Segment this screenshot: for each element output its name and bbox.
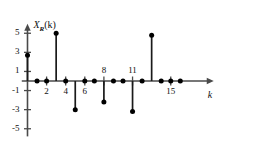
stem-marker-k6	[82, 79, 87, 84]
stem-marker-k7	[92, 79, 97, 84]
stem-marker-k0	[25, 53, 30, 58]
x-axis-arrowhead	[207, 78, 214, 84]
stem-marker-k16	[178, 79, 183, 84]
y-axis-title: XR(k)	[34, 20, 56, 33]
y-tick-label-3: 3	[0, 47, 20, 56]
stem-marker-k9	[111, 79, 116, 84]
y-tick-label-minus-1: -1	[0, 86, 20, 95]
y-axis-title-argument: (k)	[44, 19, 56, 30]
stem-marker-k14	[159, 79, 164, 84]
axes-layer	[22, 24, 214, 137]
y-tick-label-5: 5	[0, 28, 20, 37]
stem-plot-figure: XR(k) k 5 3 1 -1 -3 -5 2 4 6 8 11 15	[0, 0, 259, 156]
x-tick-label-11: 11	[113, 66, 153, 75]
y-tick-label-minus-5: -5	[0, 124, 20, 133]
stem-marker-k13	[149, 33, 154, 38]
y-axis-arrowhead	[24, 24, 30, 31]
stem-marker-k5	[73, 107, 78, 112]
stem-marker-k12	[140, 79, 145, 84]
stem-marker-k15	[168, 79, 173, 84]
y-tick-label-minus-3: -3	[0, 105, 20, 114]
stem-marker-k11	[130, 109, 135, 114]
x-tick-label-6: 6	[65, 87, 105, 96]
x-axis-title: k	[208, 90, 212, 100]
stem-marker-k10	[121, 79, 126, 84]
stem-marker-k2	[44, 79, 49, 84]
x-tick-label-15: 15	[151, 87, 191, 96]
stem-marker-k1	[35, 79, 40, 84]
y-tick-label-1: 1	[0, 66, 20, 75]
stem-marker-k8	[101, 100, 106, 105]
stem-marker-k4	[63, 79, 68, 84]
